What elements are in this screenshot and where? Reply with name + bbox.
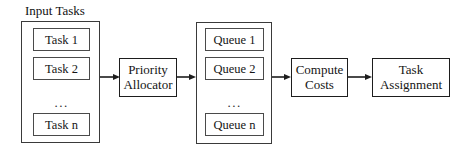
queues-ellipsis: ... <box>205 95 264 111</box>
input-task-item-n: Task n <box>33 113 90 136</box>
queue-item-2: Queue 2 <box>205 57 264 80</box>
priority-allocator-line-2: Allocator <box>123 78 172 93</box>
compute-costs-box: Compute Costs <box>291 58 348 97</box>
task-assignment-box: Task Assignment <box>372 58 450 97</box>
arrow-input-to-allocator <box>100 72 120 82</box>
task-assignment-line-2: Assignment <box>380 78 442 93</box>
queue-item-1: Queue 1 <box>205 28 264 51</box>
arrow-queues-to-compute <box>272 72 291 82</box>
priority-allocator-line-1: Priority <box>123 63 172 78</box>
input-task-item-2: Task 2 <box>33 57 90 80</box>
arrow-compute-to-assignment <box>348 72 372 82</box>
input-tasks-ellipsis: ... <box>33 95 90 111</box>
flowchart-diagram: Input Tasks Task 1 Task 2 ... Task n Pri… <box>0 0 471 160</box>
queue-item-n: Queue n <box>205 113 264 136</box>
input-tasks-caption: Input Tasks <box>25 3 85 19</box>
compute-costs-line-1: Compute <box>296 63 344 78</box>
priority-allocator-box: Priority Allocator <box>119 58 177 97</box>
input-task-item-1: Task 1 <box>33 28 90 51</box>
compute-costs-line-2: Costs <box>296 78 344 93</box>
task-assignment-line-1: Task <box>380 63 442 78</box>
arrow-allocator-to-queues <box>177 72 196 82</box>
